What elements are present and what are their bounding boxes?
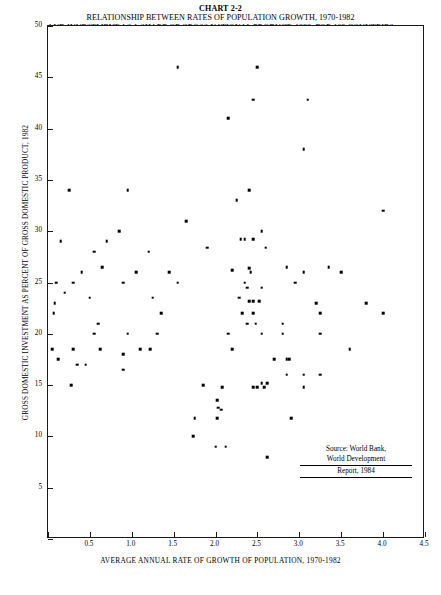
x-axis-tick [174, 532, 175, 537]
data-point [53, 312, 56, 315]
y-axis-tick-label: 40 [35, 124, 42, 132]
data-point [51, 348, 54, 351]
data-point [244, 281, 247, 284]
y-axis-tick [48, 77, 53, 78]
y-axis-tick [48, 180, 53, 181]
source-note: Source: World Bank, World Development Re… [300, 444, 412, 478]
chart-title-line-1: RELATIONSHIP BETWEEN RATES OF POPULATION… [0, 13, 441, 23]
x-axis-tick-label: 2.5 [252, 540, 261, 548]
data-point [239, 238, 242, 241]
data-point [288, 358, 291, 361]
data-point [89, 297, 92, 300]
data-point [256, 386, 259, 389]
data-point [273, 358, 276, 361]
data-point [97, 322, 100, 325]
data-point [57, 358, 60, 361]
data-point [202, 384, 205, 387]
data-point [252, 312, 255, 315]
data-point [160, 312, 163, 315]
data-point [168, 271, 171, 274]
data-point [235, 199, 238, 202]
data-point [340, 271, 343, 274]
data-point [72, 348, 75, 351]
data-point [285, 374, 288, 377]
y-axis-tick [48, 334, 53, 335]
data-point [348, 348, 351, 351]
data-point [99, 348, 102, 351]
data-point [118, 230, 121, 233]
data-point [220, 408, 223, 411]
y-axis-tick-label: 35 [35, 175, 42, 183]
data-point [93, 250, 96, 253]
x-axis-tick [90, 532, 91, 537]
data-point [263, 386, 266, 389]
data-point [246, 322, 249, 325]
data-point [122, 353, 125, 356]
data-point [139, 348, 142, 351]
x-axis-tick-label: 1.0 [126, 540, 135, 548]
y-axis-tick-label: 10 [35, 431, 42, 439]
source-note-line-2: World Development [300, 454, 412, 466]
data-point [126, 189, 129, 192]
data-point [365, 302, 368, 305]
x-axis-tick [132, 532, 133, 537]
data-point [227, 333, 230, 336]
data-point [221, 386, 224, 389]
data-point [214, 445, 217, 448]
data-point [101, 266, 104, 269]
source-note-line-3: Report, 1984 [300, 466, 412, 478]
data-point [70, 384, 73, 387]
data-point [185, 220, 188, 223]
data-point [241, 312, 244, 315]
y-axis-tick [48, 539, 53, 540]
data-point [266, 382, 269, 385]
data-point [231, 269, 234, 272]
data-point [249, 271, 252, 274]
data-point [260, 382, 263, 385]
data-point [319, 333, 322, 336]
data-point [177, 66, 180, 69]
data-point [248, 267, 251, 270]
y-axis-title: GROSS DOMESTIC INVESTMENT AS PERCENT OF … [21, 13, 30, 533]
data-point [248, 189, 251, 192]
data-point [254, 322, 257, 325]
y-axis-tick [48, 129, 53, 130]
x-axis-tick-labels: 0.51.01.52.02.53.03.54.04.5 [47, 540, 424, 554]
data-point [84, 363, 87, 366]
data-point [206, 246, 209, 249]
data-point [177, 281, 180, 284]
x-axis-tick [425, 532, 426, 537]
data-point [224, 445, 227, 448]
data-point [319, 312, 322, 315]
y-axis-tick-label: 15 [35, 380, 42, 388]
chart-number: CHART 2-2 [0, 4, 441, 13]
data-point [63, 291, 66, 294]
data-point [306, 99, 309, 102]
data-point [302, 374, 305, 377]
data-point [151, 297, 154, 300]
data-point [302, 271, 305, 274]
data-point [126, 333, 129, 336]
y-axis-tick [48, 436, 53, 437]
y-axis-tick-label: 20 [35, 329, 42, 337]
x-axis-tick [341, 532, 342, 537]
x-axis-tick [48, 532, 49, 537]
data-point [252, 300, 255, 303]
data-point [290, 417, 293, 420]
x-axis-tick-label: 4.0 [378, 540, 387, 548]
data-point [256, 66, 259, 69]
data-point [252, 238, 255, 241]
y-axis-tick-label: 45 [35, 72, 42, 80]
x-axis-title: AVERAGE ANNUAL RATE OF GROWTH OF POPULAT… [0, 556, 441, 565]
data-point [59, 240, 62, 243]
data-point [319, 374, 322, 377]
data-point [285, 266, 288, 269]
data-point [122, 281, 125, 284]
data-point [76, 363, 79, 366]
data-point [105, 240, 108, 243]
y-axis-tick [48, 231, 53, 232]
data-point [216, 399, 219, 402]
data-point [260, 286, 263, 289]
x-axis-tick [257, 532, 258, 537]
data-point [315, 302, 318, 305]
